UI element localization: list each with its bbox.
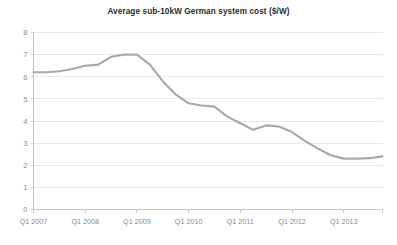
y-tick-label: 3 <box>23 139 27 148</box>
y-axis-tick-labels: 012345678 <box>23 28 27 214</box>
x-tick-label: Q1 2007 <box>20 217 48 226</box>
x-tick-label: Q1 2010 <box>175 217 203 226</box>
x-tick-label: Q1 2013 <box>330 217 358 226</box>
x-tick-label: Q1 2012 <box>278 217 306 226</box>
y-tick-label: 8 <box>23 28 27 37</box>
x-tick-label: Q1 2011 <box>227 217 254 226</box>
y-tick-label: 6 <box>23 73 27 82</box>
y-tick-label: 7 <box>23 50 27 59</box>
y-tick-label: 5 <box>23 95 27 104</box>
y-tick-label: 1 <box>23 183 27 192</box>
gridlines-group <box>31 33 383 210</box>
y-tick-label: 2 <box>23 161 27 170</box>
x-tick-label: Q1 2009 <box>123 217 151 226</box>
x-tick-label: Q1 2008 <box>71 217 99 226</box>
x-axis-ticks <box>34 210 383 214</box>
y-tick-label: 4 <box>23 117 27 126</box>
line-chart-plot: 012345678 Q1 2007Q1 2008Q1 2009Q1 2010Q1… <box>0 0 397 245</box>
y-tick-label: 0 <box>23 205 27 214</box>
chart-container: Average sub-10kW German system cost ($/W… <box>0 0 397 245</box>
x-axis-tick-labels: Q1 2007Q1 2008Q1 2009Q1 2010Q1 2011Q1 20… <box>20 217 358 226</box>
